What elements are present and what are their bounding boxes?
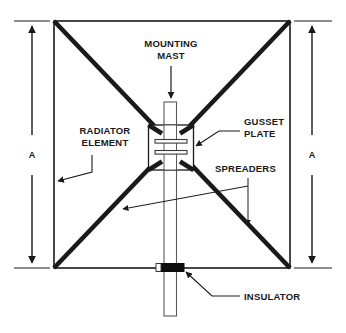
mast-through-gusset (164, 125, 177, 170)
insulator-end-cap (156, 264, 161, 272)
dimension-right: A (294, 21, 332, 268)
insulator-body (158, 264, 184, 272)
diagram-canvas: A A MOUNTING MAST RADIATOR ELEMENT GUSSE… (0, 0, 346, 333)
mounting-mast-callout: MOUNTING MAST (144, 38, 197, 98)
gusset-clamp-bar-upper (155, 140, 187, 144)
gusset-plate (149, 125, 194, 170)
gusset-plate-callout: GUSSET PLATE (196, 116, 284, 146)
antenna-diagram: A A MOUNTING MAST RADIATOR ELEMENT GUSSE… (0, 0, 346, 333)
gusset-plate-leader (196, 131, 240, 146)
radiator-element-callout: RADIATOR ELEMENT (58, 125, 130, 181)
radiator-element-leader (58, 155, 92, 181)
dimension-left: A (14, 21, 50, 268)
dimension-right-label: A (309, 150, 316, 160)
insulator-label: INSULATOR (244, 291, 300, 302)
insulator-callout: INSULATOR (186, 272, 300, 302)
gusset-plate-label-line1: GUSSET (244, 116, 284, 127)
gusset-clamp-bar-lower (155, 151, 187, 155)
mounting-mast-label-line2: MAST (157, 50, 185, 61)
gusset-plate-label-line2: PLATE (244, 128, 275, 139)
dimension-left-label: A (29, 150, 36, 160)
radiator-element-label-line1: RADIATOR (80, 125, 131, 136)
mounting-mast-label-line1: MOUNTING (144, 38, 197, 49)
radiator-element-label-line2: ELEMENT (82, 137, 129, 148)
insulator-leader (186, 272, 240, 296)
insulator (156, 264, 184, 272)
spreaders-label: SPREADERS (215, 163, 276, 174)
